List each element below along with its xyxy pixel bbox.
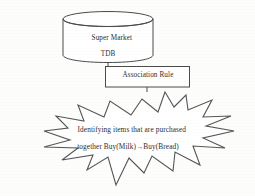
result-label-line2: together Buy(Milk)→Buy(Bread) [52, 143, 204, 151]
result-label-line1: Identifying items that are purchased [78, 125, 187, 134]
diagram-canvas: Super Market TDB Association Rule Identi… [0, 0, 255, 196]
result-label: Identifying items that are purchased tog… [52, 118, 204, 167]
database-label-line1: Super Market [92, 34, 133, 42]
database-label-line2: TDB [63, 50, 153, 58]
association-rule-label: Association Rule [105, 71, 191, 79]
database-label: Super Market TDB [63, 26, 153, 74]
